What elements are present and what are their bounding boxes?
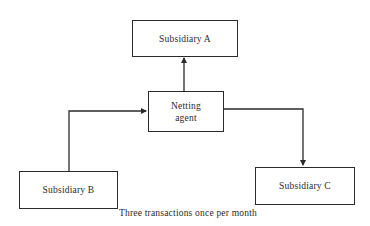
subsidiary-c-label: Subsidiary C [279, 180, 331, 192]
subsidiary-a-label: Subsidiary A [159, 33, 211, 45]
subsidiary-b-box: Subsidiary B [19, 171, 118, 209]
netting-agent-box: Netting agent [148, 91, 224, 132]
diagram-caption: Three transactions once per month [100, 208, 276, 218]
subsidiary-b-label: Subsidiary B [43, 184, 95, 196]
netting-agent-label-line2: agent [175, 112, 197, 124]
netting-agent-label-line1: Netting [171, 100, 201, 112]
subsidiary-a-box: Subsidiary A [132, 20, 238, 57]
arrow-subsidiary-b-to-agent [69, 111, 146, 171]
subsidiary-c-box: Subsidiary C [255, 167, 355, 205]
arrow-agent-to-subsidiary-c [224, 109, 303, 165]
netting-diagram: Subsidiary A Netting agent Subsidiary B … [0, 0, 370, 226]
